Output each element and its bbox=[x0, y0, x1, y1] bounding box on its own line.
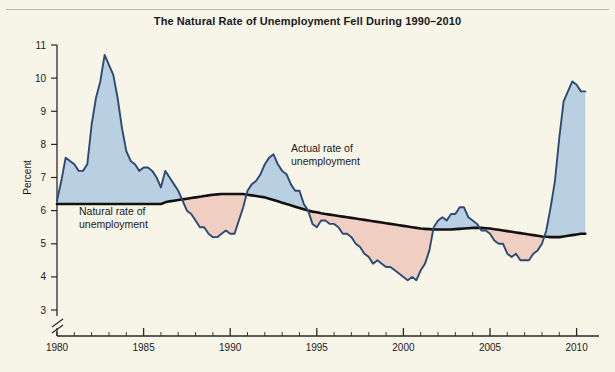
annotation-natural-line1: Natural rate of bbox=[79, 205, 146, 217]
x-tick-label: 1990 bbox=[219, 342, 242, 353]
y-axis-ticks bbox=[51, 45, 57, 310]
y-tick-label: 11 bbox=[36, 40, 47, 51]
annotation-natural-rate: Natural rate of unemployment bbox=[79, 205, 148, 230]
fill-actual-below-natural bbox=[182, 194, 544, 280]
y-tick-label: 10 bbox=[35, 73, 47, 84]
y-tick-label: 7 bbox=[40, 172, 46, 183]
x-axis-tick-labels: 1980198519901995200020052010 bbox=[46, 342, 588, 353]
y-axis-tick-labels: 34567891011 bbox=[35, 40, 47, 316]
annotation-natural-line2: unemployment bbox=[79, 218, 148, 230]
x-axis-ticks bbox=[57, 328, 577, 336]
x-tick-label: 1980 bbox=[46, 342, 69, 353]
y-tick-label: 9 bbox=[40, 106, 46, 117]
annotation-actual-line1: Actual rate of bbox=[291, 142, 353, 154]
y-tick-label: 6 bbox=[40, 205, 46, 216]
x-tick-label: 1995 bbox=[306, 342, 329, 353]
chart-figure: The Natural Rate of Unemployment Fell Du… bbox=[0, 0, 615, 372]
chart-plot-area: 34567891011 1980198519901995200020052010… bbox=[0, 0, 615, 372]
x-tick-label: 2005 bbox=[479, 342, 502, 353]
y-tick-label: 5 bbox=[40, 238, 46, 249]
annotation-actual-rate: Actual rate of unemployment bbox=[291, 142, 360, 167]
x-tick-label: 1985 bbox=[132, 342, 155, 353]
y-tick-label: 3 bbox=[40, 305, 46, 316]
annotation-actual-line2: unemployment bbox=[291, 155, 360, 167]
y-tick-label: 4 bbox=[40, 271, 46, 282]
y-tick-label: 8 bbox=[40, 139, 46, 150]
x-tick-label: 2000 bbox=[392, 342, 415, 353]
x-tick-label: 2010 bbox=[565, 342, 588, 353]
